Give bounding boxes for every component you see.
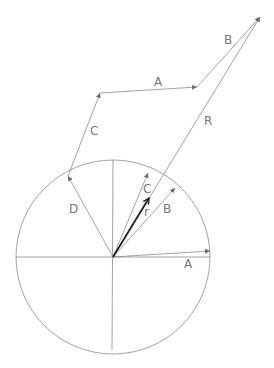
label-a-chain: A <box>154 75 163 89</box>
vector-b-circle <box>113 188 175 257</box>
label-b-circle: B <box>163 202 171 216</box>
label-a-circle: A <box>184 257 193 271</box>
vector-a-chain <box>100 87 197 93</box>
label-b-chain: B <box>224 33 232 47</box>
label-d-circle: D <box>69 202 78 216</box>
vector-b-chain <box>197 17 260 87</box>
label-r-resultant: R <box>204 114 212 128</box>
label-r-unit: r <box>144 205 149 219</box>
vector-d-circle <box>68 176 113 257</box>
vector-a-circle <box>113 251 210 257</box>
vector-diagram: B A C R C D B r A <box>0 0 274 368</box>
label-c-circle: C <box>143 182 151 196</box>
label-c-chain: C <box>90 124 98 138</box>
